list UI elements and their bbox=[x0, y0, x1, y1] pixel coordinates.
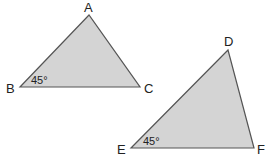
vertex-label-c: C bbox=[144, 81, 153, 96]
triangle-def: D E F 45° bbox=[117, 34, 265, 157]
vertex-label-f: F bbox=[257, 142, 265, 157]
triangle-def-shape bbox=[131, 50, 254, 148]
vertex-label-a: A bbox=[84, 0, 93, 15]
angle-label-b: 45° bbox=[31, 74, 48, 86]
angle-label-e: 45° bbox=[143, 135, 160, 147]
vertex-label-e: E bbox=[117, 142, 126, 157]
triangle-abc: A B C 45° bbox=[6, 0, 153, 96]
vertex-label-b: B bbox=[6, 81, 15, 96]
vertex-label-d: D bbox=[224, 34, 233, 49]
similar-triangles-diagram: A B C 45° D E F 45° bbox=[0, 0, 267, 162]
